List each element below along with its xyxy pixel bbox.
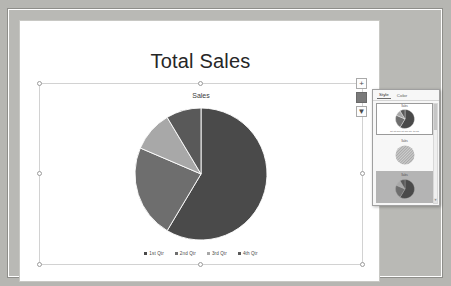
resize-handle-bottom-center[interactable] <box>198 262 203 267</box>
chart-style-thumbnail-list[interactable]: Sales1st Qtr 2nd Qtr 3rd Qtr 4th QtrSale… <box>376 103 433 204</box>
legend-swatch-icon <box>238 252 241 255</box>
thumbnail-title: Sales <box>401 141 408 144</box>
chart-side-buttons[interactable]: + ▼ <box>356 78 367 117</box>
legend-item[interactable]: 3rd Qtr <box>207 251 227 256</box>
panel-tab-bar[interactable]: Style Color <box>373 90 439 101</box>
chart-style-thumbnail[interactable]: Sales <box>376 171 433 203</box>
thumbnail-legend: 1st Qtr 2nd Qtr 3rd Qtr 4th Qtr <box>390 130 419 132</box>
resize-handle-bottom-right[interactable] <box>360 262 365 267</box>
pie-slices[interactable] <box>135 108 267 240</box>
resize-handle-middle-left[interactable] <box>37 171 42 176</box>
scrollbar-thumb[interactable] <box>434 104 437 130</box>
resize-handle-middle-right[interactable] <box>360 171 365 176</box>
legend-item[interactable]: 1st Qtr <box>144 251 163 256</box>
legend-label: 1st Qtr <box>149 251 163 256</box>
thumbnail-pie-icon <box>395 179 415 199</box>
chart-styles-panel[interactable]: Style Color Sales1st Qtr 2nd Qtr 3rd Qtr… <box>372 89 440 206</box>
chart-legend[interactable]: 1st Qtr2nd Qtr3rd Qtr4th Qtr <box>40 251 362 256</box>
chart-elements-icon[interactable]: + <box>356 78 367 89</box>
powerpoint-editor-frame: Total Sales Sales 1st Qtr2nd Qtr3rd Qtr4… <box>7 8 443 278</box>
chart-title[interactable]: Sales <box>40 92 362 99</box>
resize-handle-top-center[interactable] <box>198 81 203 86</box>
legend-item[interactable]: 4th Qtr <box>238 251 258 256</box>
legend-label: 3rd Qtr <box>212 251 227 256</box>
panel-scrollbar[interactable]: ▲ ▼ <box>433 103 438 204</box>
chart-styles-icon[interactable] <box>356 92 367 103</box>
thumbnail-title: Sales <box>401 106 408 109</box>
legend-swatch-icon <box>175 252 178 255</box>
thumbnail-pie-icon <box>395 145 415 165</box>
scroll-down-icon[interactable]: ▼ <box>434 198 437 203</box>
thumbnail-title: Sales <box>401 175 408 178</box>
resize-handle-top-left[interactable] <box>37 81 42 86</box>
chart-style-thumbnail[interactable]: Sales1st Qtr 2nd Qtr 3rd Qtr 4th Qtr <box>376 103 433 135</box>
tab-color[interactable]: Color <box>395 92 410 99</box>
resize-handle-bottom-left[interactable] <box>37 262 42 267</box>
tab-style[interactable]: Style <box>377 91 391 99</box>
legend-label: 4th Qtr <box>243 251 258 256</box>
pie-chart-svg[interactable] <box>133 106 269 242</box>
thumbnail-pie-icon <box>395 109 415 129</box>
legend-swatch-icon <box>144 252 147 255</box>
slide-canvas[interactable]: Total Sales Sales 1st Qtr2nd Qtr3rd Qtr4… <box>19 20 380 282</box>
chart-object[interactable]: Sales 1st Qtr2nd Qtr3rd Qtr4th Qtr <box>39 83 363 265</box>
legend-label: 2nd Qtr <box>180 251 196 256</box>
page-title[interactable]: Total Sales <box>20 50 381 73</box>
chart-filters-icon[interactable]: ▼ <box>356 106 367 117</box>
legend-swatch-icon <box>207 252 210 255</box>
legend-item[interactable]: 2nd Qtr <box>175 251 196 256</box>
pie-chart-plot-area[interactable] <box>40 106 362 242</box>
chart-style-thumbnail[interactable]: Sales <box>376 137 433 169</box>
